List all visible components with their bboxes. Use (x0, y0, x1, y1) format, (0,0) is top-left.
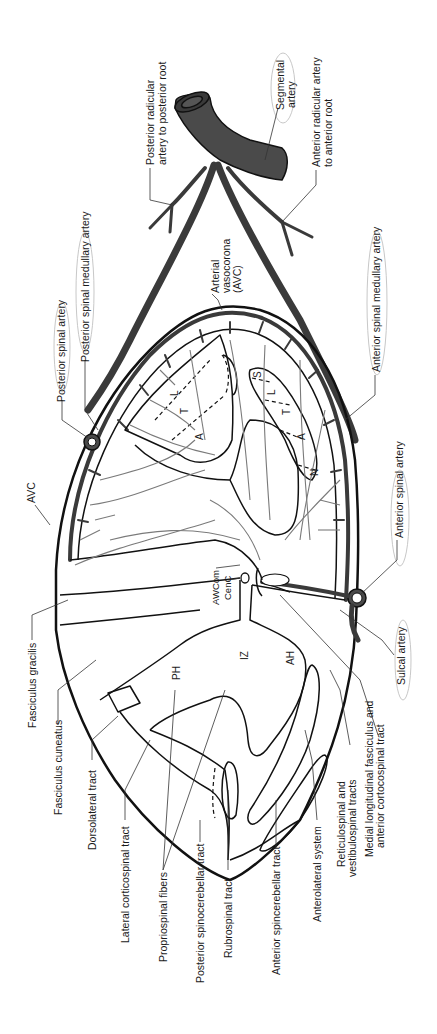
label-medial-longitudinal-2: anterior cortocospinal tract (374, 724, 386, 848)
posterior-radicular-trunk (88, 165, 214, 410)
central-canal (241, 573, 249, 583)
dorsolateral-tract-box (108, 686, 140, 712)
label-anterior-spinocerebellar-tract: Anterior spincerebellar tract (270, 847, 282, 975)
region-iz: IZ (239, 651, 250, 660)
label-fasciculus-cuneatus: Fasciculus cuneatus (52, 720, 64, 815)
alst-segment-s: S (252, 371, 263, 378)
spinal-cord-blood-supply-diagram: Posterior radicular artery to posterior … (0, 0, 437, 1034)
label-dorsolateral-tract: Dorsolateral tract (86, 770, 98, 850)
anterior-radicular-trunk (218, 165, 355, 440)
label-posterior-spinal-artery: Posterior spinal artery (55, 299, 67, 402)
label-lateral-corticospinal-tract: Lateral corticospinal tract (119, 826, 131, 943)
arterial-vasocorona-ring (70, 313, 348, 600)
label-posterior-spinocerebellar-tract: Posterior spinocerebellar tract (194, 843, 206, 983)
label-fasciculus-gracilis: Fasciculus gracilis (26, 643, 38, 728)
ventral-horn-upper (135, 420, 298, 535)
lcst-segment-t: T (179, 408, 190, 414)
label-awcom: AWCom (210, 570, 221, 605)
label-posterior-radicular-2: artery to posterior root (156, 62, 168, 165)
label-propriospinal-fibers: Propriospinal fibers (157, 872, 169, 962)
rubrospinal-tract-oval (222, 762, 238, 819)
label-rubrospinal-tract: Rubrospinal tract (222, 879, 234, 958)
label-anterior-radicular-2: to anterior root (322, 99, 334, 167)
alst-segment-l: L (266, 389, 277, 395)
label-cenc: CenC (222, 576, 233, 600)
alst-segment-n: N (309, 469, 320, 476)
label-reticulospinal-2: vestibulospinal tracts (346, 780, 358, 877)
label-anterior-radicular-1: Anterior radicular artery (310, 57, 322, 167)
region-ah: AH (285, 651, 296, 665)
label-posterior-spinal-medullary-artery: Posterior spinal medullary artery (79, 211, 91, 362)
region-ph: PH (171, 666, 182, 680)
label-posterior-radicular-1: Posterior radicular (144, 79, 156, 165)
label-anterior-spinal-artery: Anterior spinal artery (393, 440, 405, 538)
label-anterolateral-system: Anterolateral system (311, 826, 323, 922)
label-avc: AVC (25, 482, 37, 503)
label-sulcal-artery: Sulcal artery (395, 626, 407, 685)
alst-segment-a: A (296, 433, 307, 440)
label-segmental-artery-2: artery (285, 80, 297, 108)
label-anterior-spinal-medullary-artery: Anterior spinal medullary artery (370, 226, 382, 372)
lcst-segment-a: A (194, 433, 205, 440)
white-matter-tracts (60, 580, 327, 860)
lcst-segment-l: L (169, 390, 180, 396)
alst-region (249, 368, 316, 480)
alst-segment-t: T (281, 409, 292, 415)
label-arterial-vasocorona-3: (AVC) (231, 265, 243, 293)
